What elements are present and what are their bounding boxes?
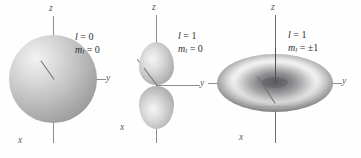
p-z-orbital-quantum-labels: l = 1 ml = 0 — [178, 29, 203, 58]
p-orbital-lower-lobe — [139, 86, 174, 129]
l-value: 0 — [88, 31, 93, 42]
z-axis-label: z — [271, 3, 275, 13]
panel-p-z-orbital: z y x l = 1 ml = 0 — [112, 0, 222, 158]
p-orbital-upper-lobe — [139, 42, 174, 85]
z-axis-label: z — [152, 3, 156, 13]
y-axis-line — [156, 85, 200, 86]
l-equals: = — [293, 29, 299, 40]
m-equals: = — [190, 43, 196, 54]
l-symbol: l — [75, 31, 78, 42]
l-equals: = — [80, 31, 86, 42]
panel-p-pm1-orbital: z y x l = 1 ml = ±1 — [222, 0, 361, 158]
torus-base-guide-line — [255, 106, 289, 107]
x-axis-label: x — [18, 136, 22, 146]
m-subscript: l — [295, 46, 297, 54]
l-value: 1 — [191, 30, 196, 41]
l-equals: = — [183, 30, 189, 41]
l-value: 1 — [301, 29, 306, 40]
x-axis-label: x — [239, 133, 243, 143]
p-pm1-orbital-quantum-labels: l = 1 ml = ±1 — [288, 28, 318, 57]
orbital-diagram-figure: z y x l = 0 ml = 0 z — [0, 0, 361, 158]
x-axis-label: x — [120, 123, 124, 133]
l-symbol: l — [178, 30, 181, 41]
panel-s-orbital: z y x l = 0 ml = 0 — [0, 0, 112, 158]
z-axis-label: z — [49, 4, 53, 14]
m-subscript: l — [185, 47, 187, 55]
m-equals: = — [87, 44, 93, 55]
y-axis-label: y — [200, 79, 204, 89]
m-value: ±1 — [308, 42, 319, 53]
l-symbol: l — [288, 29, 291, 40]
s-orbital-quantum-labels: l = 0 ml = 0 — [75, 30, 100, 59]
y-axis-label: y — [106, 74, 110, 84]
m-equals: = — [300, 42, 306, 53]
m-value: 0 — [95, 44, 100, 55]
m-value: 0 — [198, 43, 203, 54]
m-subscript: l — [82, 48, 84, 56]
y-axis-label: y — [342, 77, 346, 87]
z-axis-through-hole — [275, 48, 276, 84]
